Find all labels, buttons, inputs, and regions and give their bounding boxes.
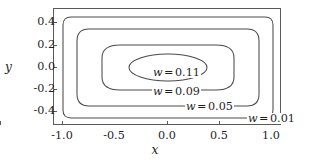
contour-label-value-3: 0.01 <box>270 112 295 125</box>
contour-label-equals-3: = <box>258 112 270 125</box>
contour-label-value-2: 0.05 <box>208 100 233 113</box>
x-tick-mark-2 <box>167 121 168 125</box>
contour-label-equals-1: = <box>163 85 175 98</box>
contour-label-value-0: 0.11 <box>175 66 200 79</box>
x-tick-label-0: -1.0 <box>40 130 84 141</box>
contour-label-variable-1: w <box>153 85 163 98</box>
x-tick-label-4: 1.0 <box>249 130 293 141</box>
y-tick-label-3: -0.2 <box>33 83 55 94</box>
contour-label-0.05: w=0.05 <box>185 101 234 112</box>
x-tick-label-2: 0.0 <box>145 130 189 141</box>
y-tick-label-4: -0.4 <box>33 105 55 116</box>
y-tick-label-0: 0.4 <box>37 16 55 27</box>
x-tick-mark-3 <box>219 121 220 125</box>
y-axis-label: y <box>5 60 12 74</box>
contour-label-0.01: w=0.01 <box>247 113 296 124</box>
contour-plot-figure: 0.4 0.2 0.0 -0.2 -0.4 -1.0 -0.5 0.0 0.5 … <box>0 0 310 160</box>
y-tick-label-2: 0.0 <box>37 61 55 72</box>
x-tick-mark-0 <box>62 121 63 125</box>
y-tick-label-1: 0.2 <box>37 39 55 50</box>
contour-label-0.09: w=0.09 <box>152 86 201 97</box>
contour-label-variable-0: w <box>153 66 163 79</box>
contour-label-equals-2: = <box>196 100 208 113</box>
contour-label-0.11: w=0.11 <box>152 67 201 78</box>
x-tick-label-3: 0.5 <box>197 130 241 141</box>
contour-label-equals-0: = <box>163 66 175 79</box>
contour-label-variable-2: w <box>186 100 196 113</box>
contour-label-value-1: 0.09 <box>175 85 200 98</box>
x-tick-mark-1 <box>0 121 1 125</box>
x-axis-label: x <box>0 143 310 157</box>
contour-label-variable-3: w <box>248 112 258 125</box>
x-tick-label-1: -0.5 <box>92 130 136 141</box>
